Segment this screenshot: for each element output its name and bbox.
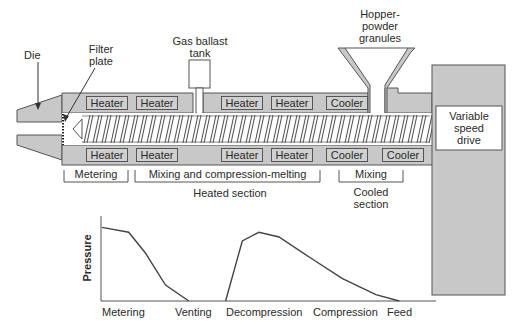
gas-ballast-tank [189, 60, 210, 88]
x-label-venting: Venting [175, 306, 212, 318]
filter-plate-line2: plate [86, 55, 116, 67]
cooled-section-label: Cooled section [339, 186, 403, 210]
bottom-heater-4: Heater [271, 148, 313, 162]
gas-ballast-line2: tank [170, 47, 230, 59]
x-label-feed: Feed [387, 306, 412, 318]
top-heater-4: Heater [271, 96, 313, 110]
heated-section-label: Heated section [160, 187, 300, 199]
bottom-cooler-2: Cooler [382, 148, 424, 162]
filter-plate-line1: Filter [86, 43, 116, 55]
drive-line1: Variable [436, 110, 502, 122]
x-label-compression: Compression [313, 306, 378, 318]
cooled-line1: Cooled [339, 186, 403, 198]
gas-ballast-line1: Gas ballast [170, 35, 230, 47]
die-upper [17, 95, 62, 122]
bottom-cooler-1: Cooler [326, 148, 368, 162]
pressure-curve [102, 227, 399, 301]
top-heater-3: Heater [221, 96, 263, 110]
pressure-graph-axes [101, 216, 436, 301]
barrel-top-right [385, 88, 432, 113]
drive-line3: drive [436, 134, 502, 146]
hopper-label: Hopper- powder granules [350, 8, 410, 44]
filter-plate-label: Filter plate [86, 43, 116, 67]
die-label: Die [24, 49, 41, 61]
top-cooler-1: Cooler [326, 96, 368, 110]
drive-label: Variable speed drive [436, 110, 502, 146]
top-heater-2: Heater [136, 96, 178, 110]
x-label-decompression: Decompression [226, 306, 302, 318]
y-axis-label: Pressure [81, 233, 93, 283]
gas-ballast-label: Gas ballast tank [170, 35, 230, 59]
drive-line2: speed [436, 122, 502, 134]
top-heater-1: Heater [86, 96, 128, 110]
zone-metering: Metering [64, 168, 128, 180]
zone-mixing-compression: Mixing and compression-melting [135, 168, 320, 180]
die-lower [17, 135, 62, 160]
extruder-diagram [0, 0, 517, 328]
hopper-line3: granules [350, 32, 410, 44]
x-label-metering: Metering [102, 306, 145, 318]
bottom-heater-3: Heater [221, 148, 263, 162]
cooled-line2: section [339, 198, 403, 210]
hopper-line1: Hopper- [350, 8, 410, 20]
bottom-heater-1: Heater [86, 148, 128, 162]
bottom-heater-2: Heater [136, 148, 178, 162]
zone-mixing: Mixing [339, 168, 403, 180]
drive-housing [432, 65, 505, 295]
hopper-line2: powder [350, 20, 410, 32]
